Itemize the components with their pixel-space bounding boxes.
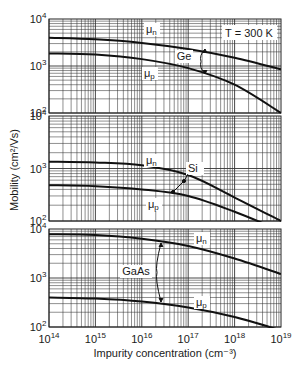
x-tick-label: 1016: [131, 331, 153, 345]
pointer-arrow: [171, 174, 188, 194]
x-tick-label: 1017: [178, 331, 200, 345]
temperature-label: T = 300 K: [225, 27, 273, 39]
mu-n-curve: [49, 234, 281, 274]
material-label: Si: [188, 162, 198, 174]
x-tick-label: 1019: [270, 331, 292, 345]
chart-canvas: μnμpGeT = 300 KμnμpSiμnμpGaAs 1041031021…: [0, 0, 305, 367]
y-axis-label: Mobility (cm²/Vs): [8, 129, 20, 211]
si-panel: μnμpSi: [49, 116, 281, 231]
y-tick-label: 103: [30, 161, 47, 175]
ge-panel: μnμpGeT = 300 K: [49, 19, 281, 113]
x-axis-label: Impurity concentration (cm⁻³): [94, 347, 237, 359]
panels-layer: μnμpGeT = 300 KμnμpSiμnμpGaAs: [49, 19, 281, 330]
material-label: Ge: [177, 50, 192, 62]
y-tick-label: 104: [30, 221, 47, 235]
mu-p-curve: [49, 53, 281, 113]
y-tick-label: 104: [30, 11, 47, 25]
grid: [49, 229, 281, 327]
x-tick-label: 1015: [85, 331, 107, 345]
gaas-panel: μnμpGaAs: [49, 229, 281, 330]
y-tick-label: 103: [30, 58, 47, 72]
x-tick-label: 1014: [38, 331, 60, 345]
y-tick-label: 102: [30, 319, 47, 333]
mu-p-curve: [49, 297, 281, 330]
pointer-arrow: [157, 243, 164, 302]
x-tick-label: 1018: [224, 331, 246, 345]
material-label: GaAs: [122, 265, 150, 277]
y-tick-label: 103: [30, 270, 47, 284]
mu-p-curve: [49, 185, 281, 231]
pointer-arrow: [201, 49, 208, 74]
mobility-chart-figure: μnμpGeT = 300 KμnμpSiμnμpGaAs 1041031021…: [0, 0, 305, 367]
y-tick-label: 104: [30, 108, 47, 122]
